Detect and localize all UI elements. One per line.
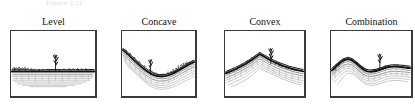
- panel-label-level: Level: [10, 16, 97, 28]
- level-subsoil-shading: [12, 73, 94, 87]
- panel-label-combination: Combination: [330, 16, 413, 28]
- panel-convex: Convex: [224, 16, 306, 100]
- panel-box-level: [10, 30, 97, 98]
- panel-label-convex: Convex: [224, 16, 306, 28]
- panel-box-convex: [224, 30, 306, 98]
- concave-terrain-profile: [122, 31, 195, 96]
- combination-tree-icon: [378, 54, 382, 69]
- level-terrain-profile: [11, 31, 95, 96]
- level-tree-icon: [53, 55, 58, 71]
- combination-terrain-profile: [331, 31, 411, 96]
- terrain-profiles-figure: Figure 2.11 Level: [0, 0, 415, 109]
- panel-label-concave: Concave: [121, 16, 197, 28]
- panel-level: Level: [10, 16, 97, 100]
- convex-terrain-profile: [225, 31, 304, 96]
- panel-box-concave: [121, 30, 197, 98]
- panel-concave: Concave: [121, 16, 197, 100]
- figure-top-caption: Figure 2.11: [46, 0, 166, 7]
- panel-box-combination: [330, 30, 413, 98]
- panel-combination: Combination: [330, 16, 413, 100]
- convex-subsoil-shading: [226, 57, 303, 87]
